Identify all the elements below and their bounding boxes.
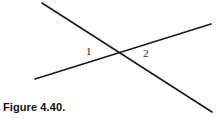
figure-caption: Figure 4.40. bbox=[3, 101, 65, 114]
angle-label-2: 2 bbox=[143, 48, 149, 59]
ascending-line-segment bbox=[35, 24, 211, 79]
angle-label-1: 1 bbox=[86, 46, 92, 57]
descending-line-segment bbox=[42, 3, 212, 112]
figure-container: 1 2 Figure 4.40. bbox=[0, 0, 216, 118]
